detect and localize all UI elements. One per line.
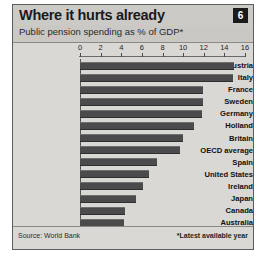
x-tick-mark: [121, 53, 122, 57]
bar-row: Canada: [13, 205, 253, 217]
x-tick-mark: [204, 53, 205, 57]
x-tick-mark: [245, 53, 246, 57]
bar-row: France: [13, 84, 253, 96]
category-label: Japan: [189, 194, 253, 203]
category-label: Ireland: [189, 182, 253, 191]
bar: [80, 98, 203, 106]
page-title: Where it hurts already: [19, 7, 165, 23]
x-tick-mark: [80, 53, 81, 57]
bar: [80, 146, 180, 154]
x-tick-mark: [183, 53, 184, 57]
x-tick-mark: [224, 53, 225, 57]
chart-header: Where it hurts already Public pension sp…: [13, 5, 253, 43]
bar: [80, 207, 125, 215]
x-tick-label: 0: [78, 43, 82, 52]
footnote-label: *Latest available year: [177, 232, 248, 239]
bar: [80, 182, 143, 190]
x-tick-label: 12: [200, 43, 208, 52]
bar-series: AustriaItalyFranceSwedenGermanyHollandBr…: [13, 60, 253, 225]
bar-row: Ireland: [13, 181, 253, 193]
bar-row: Germany: [13, 108, 253, 120]
bar: [80, 158, 157, 166]
x-tick-label: 10: [179, 43, 187, 52]
category-label: Canada: [189, 206, 253, 215]
x-tick-label: 4: [119, 43, 123, 52]
category-label: Holland: [189, 121, 253, 130]
bar: [80, 62, 234, 70]
category-label: Britain: [189, 134, 253, 143]
bar: [80, 170, 149, 178]
source-label: Source: World Bank: [18, 232, 80, 239]
category-label: United States: [189, 170, 253, 179]
bar: [80, 122, 194, 130]
x-tick-mark: [142, 53, 143, 57]
chart-subtitle: Public pension spending as % of GDP*: [19, 26, 183, 37]
category-label: Spain: [189, 158, 253, 167]
bar: [80, 110, 202, 118]
x-tick-label: 2: [99, 43, 103, 52]
x-axis: 0246810121416: [13, 43, 253, 59]
x-tick-label: 14: [220, 43, 228, 52]
bar-row: Italy: [13, 72, 253, 84]
x-tick-mark: [163, 53, 164, 57]
bar-row: Japan: [13, 193, 253, 205]
figure-number-badge: 6: [233, 8, 248, 23]
x-tick-label: 16: [241, 43, 249, 52]
bar-row: Sweden: [13, 96, 253, 108]
bar-row: Britain: [13, 133, 253, 145]
bar-row: OECD average: [13, 145, 253, 157]
x-tick-mark: [101, 53, 102, 57]
bar-row: Holland: [13, 120, 253, 132]
x-tick-label: 6: [140, 43, 144, 52]
bar: [80, 195, 136, 203]
bar-row: Austria: [13, 60, 253, 72]
chart-figure: Where it hurts already Public pension sp…: [12, 4, 254, 250]
bar-row: Spain: [13, 157, 253, 169]
chart-footer: Source: World Bank *Latest available yea…: [13, 226, 253, 249]
x-tick-label: 8: [160, 43, 164, 52]
bar-row: United States: [13, 169, 253, 181]
plot-area: 0246810121416 AustriaItalyFranceSwedenGe…: [13, 43, 253, 249]
bar: [80, 74, 233, 82]
bar: [80, 134, 183, 142]
category-label: OECD average: [189, 146, 253, 155]
bar: [80, 86, 203, 94]
